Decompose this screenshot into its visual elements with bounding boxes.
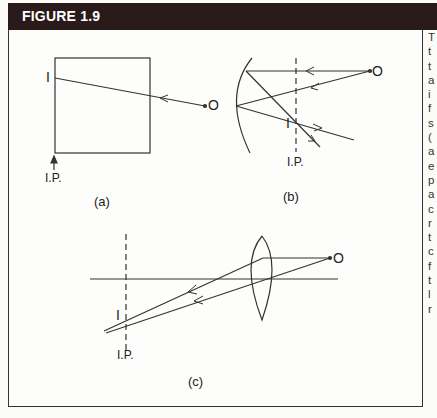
panel-c-image-label: I: [116, 307, 120, 323]
figure-diagrams: O I I.P. (a) O I I.P. (b) O I I.P. (c): [0, 0, 437, 418]
panel-b-object-label: O: [372, 63, 383, 79]
panel-a-caption: (a): [94, 194, 110, 209]
panel-a-ray: [55, 78, 205, 106]
panel-a-ip-label: I.P.: [45, 171, 61, 185]
panel-a-image-label: I: [46, 69, 50, 85]
panel-c-ip-label: I.P.: [117, 348, 133, 362]
panel-c: [90, 234, 338, 350]
panel-c-object-label: O: [333, 250, 344, 266]
panel-c-caption: (c): [188, 374, 203, 389]
panel-a: [51, 58, 207, 170]
panel-b-image-label: I: [286, 115, 290, 131]
panel-b-caption: (b): [283, 189, 299, 204]
panel-b-ip-label: I.P.: [287, 155, 303, 169]
panel-a-box: [55, 58, 150, 153]
ip-arrow-up-icon: [51, 156, 57, 163]
panel-a-object-label: O: [208, 97, 219, 113]
panel-b: [236, 58, 372, 153]
